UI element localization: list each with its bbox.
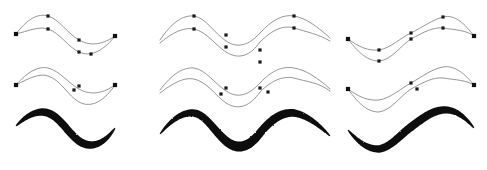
control-node-marker[interactable]: [224, 86, 227, 89]
control-node-marker[interactable]: [441, 15, 444, 18]
control-node-marker[interactable]: [219, 92, 222, 95]
figure-canvas: [0, 0, 487, 170]
endpoint-node-marker[interactable]: [14, 83, 18, 87]
endpoint-node-marker[interactable]: [346, 87, 350, 91]
control-node-marker[interactable]: [409, 31, 412, 34]
control-node-marker[interactable]: [409, 81, 412, 84]
control-node-marker[interactable]: [72, 88, 75, 91]
control-node-marker[interactable]: [258, 48, 261, 51]
control-node-marker[interactable]: [77, 38, 80, 41]
endpoint-node-marker[interactable]: [14, 32, 18, 36]
control-node-marker[interactable]: [46, 27, 49, 30]
control-node-marker[interactable]: [377, 59, 380, 62]
control-node-marker[interactable]: [192, 14, 195, 17]
control-node-marker[interactable]: [292, 26, 295, 29]
control-node-marker[interactable]: [415, 87, 418, 90]
control-node-marker[interactable]: [377, 48, 380, 51]
endpoint-node-marker[interactable]: [113, 83, 117, 87]
endpoint-node-marker[interactable]: [472, 34, 476, 38]
endpoint-node-marker[interactable]: [346, 37, 350, 41]
control-node-marker[interactable]: [258, 60, 261, 63]
endpoint-node-marker[interactable]: [113, 34, 117, 38]
control-node-marker[interactable]: [89, 52, 92, 55]
control-node-marker[interactable]: [266, 90, 269, 93]
brush-stroke-figure: [0, 0, 487, 170]
control-node-marker[interactable]: [409, 37, 412, 40]
control-node-marker[interactable]: [441, 26, 444, 29]
control-node-marker[interactable]: [224, 33, 227, 36]
control-node-marker[interactable]: [224, 45, 227, 48]
control-node-marker[interactable]: [77, 84, 80, 87]
control-node-marker[interactable]: [46, 14, 49, 17]
control-node-marker[interactable]: [77, 50, 80, 53]
control-node-marker[interactable]: [258, 86, 261, 89]
endpoint-node-marker[interactable]: [472, 83, 476, 87]
control-node-marker[interactable]: [192, 27, 195, 30]
control-node-marker[interactable]: [292, 14, 295, 17]
